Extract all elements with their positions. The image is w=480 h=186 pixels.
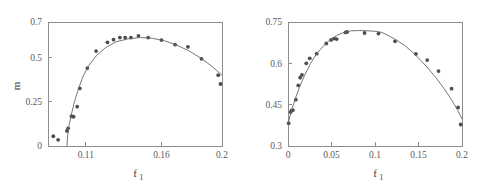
data-point [216, 73, 220, 77]
chart-panel-right: 0.30.450.60.7500.050.10.150.2f1 [240, 0, 480, 186]
data-point [72, 115, 76, 119]
data-point [219, 82, 223, 86]
data-point [363, 31, 367, 35]
fit-curve [67, 38, 222, 146]
data-point [308, 56, 312, 60]
data-point [94, 49, 98, 53]
x-tick-label-1: 0.16 [153, 150, 170, 160]
data-point [459, 123, 463, 127]
x-tick-label-2: 0.2 [216, 150, 228, 160]
data-point [112, 38, 116, 42]
chart-panel-left: 00.250.50.70.110.160.2f1m [0, 0, 240, 186]
x-tick-label-1: 0.05 [323, 150, 340, 160]
data-point [437, 69, 441, 73]
chart-svg-right: 0.30.450.60.7500.050.10.150.2f1 [240, 0, 480, 186]
data-point [335, 37, 339, 41]
data-point [51, 134, 55, 138]
data-point [106, 40, 110, 44]
plot-frame [288, 22, 462, 146]
x-axis-title: f [133, 167, 137, 179]
x-axis-title: f [373, 167, 377, 179]
figure-two-panel-scatter-plots: 00.250.50.70.110.160.2f1m 0.30.450.60.75… [0, 0, 480, 186]
data-point [186, 45, 190, 49]
fit-curve [288, 31, 462, 124]
y-axis-title: m [10, 81, 22, 90]
data-point [450, 87, 454, 91]
y-tick-label-2: 0.6 [270, 59, 282, 69]
x-axis-title-subscript: 1 [140, 173, 144, 182]
chart-svg-left: 00.250.50.70.110.160.2f1m [0, 0, 240, 186]
x-tick-label-4: 0.2 [456, 150, 468, 160]
x-axis-title-subscript: 1 [380, 173, 384, 182]
x-tick-label-0: 0.11 [78, 150, 95, 160]
data-point [137, 34, 141, 38]
data-point [425, 58, 429, 62]
x-tick-label-2: 0.1 [369, 150, 381, 160]
plot-frame [48, 22, 222, 146]
y-tick-label-0: 0 [37, 141, 42, 151]
y-tick-label-0: 0.3 [270, 141, 282, 151]
data-point [118, 36, 122, 40]
y-tick-label-3: 0.75 [265, 17, 282, 27]
x-tick-label-3: 0.15 [410, 150, 427, 160]
y-tick-label-1: 0.25 [25, 97, 42, 107]
x-tick-label-0: 0 [286, 150, 291, 160]
data-point [56, 138, 60, 142]
data-point [304, 61, 308, 65]
data-point [75, 105, 79, 109]
y-tick-label-1: 0.45 [265, 100, 282, 110]
y-tick-label-3: 0.7 [30, 17, 42, 27]
y-tick-label-2: 0.5 [30, 53, 42, 63]
data-point [300, 73, 304, 77]
